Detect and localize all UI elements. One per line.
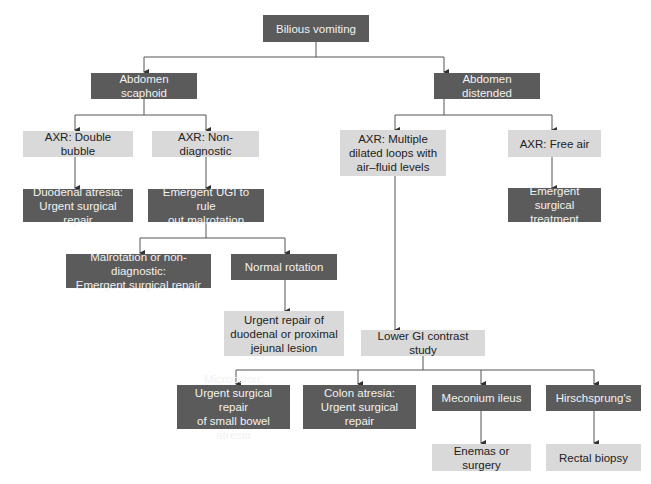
node-emergent-ugi: Emergent UGI to rule out malrotation [148, 189, 264, 222]
node-bilious-vomiting: Bilious vomiting [263, 15, 369, 42]
node-duodenal-atresia: Duodenal atresia: Urgent surgical repair [23, 189, 133, 222]
node-microcolon: Microcolon: Urgent surgical repair of sm… [177, 385, 290, 429]
node-abdomen-scaphoid: Abdomen scaphoid [91, 73, 197, 99]
flowchart-canvas: Bilious vomiting Abdomen scaphoid Abdome… [0, 0, 651, 484]
node-rectal-biopsy: Rectal biopsy [546, 444, 641, 471]
node-enemas-or-surgery: Enemas or surgery [432, 444, 531, 471]
node-axr-non-diagnostic: AXR: Non-diagnostic [152, 131, 259, 157]
node-lower-gi-contrast: Lower GI contrast study [361, 330, 485, 356]
node-abdomen-distended: Abdomen distended [434, 73, 540, 99]
node-normal-rotation: Normal rotation [231, 254, 337, 280]
node-meconium-ileus: Meconium ileus [432, 385, 531, 411]
node-axr-multiple-loops: AXR: Multiple dilated loops with air–flu… [340, 130, 446, 176]
node-emergent-surgical-treatment: Emergent surgical treatment [508, 188, 601, 222]
node-axr-double-bubble: AXR: Double bubble [23, 131, 133, 157]
node-malrotation: Malrotation or non-diagnostic: Emergent … [66, 254, 211, 288]
node-urgent-repair-duodenal: Urgent repair of duodenal or proximal je… [224, 311, 344, 356]
node-hirschsprungs: Hirschsprung's [546, 385, 641, 411]
node-axr-free-air: AXR: Free air [508, 130, 601, 157]
node-colon-atresia: Colon atresia: Urgent surgical repair [303, 385, 416, 429]
